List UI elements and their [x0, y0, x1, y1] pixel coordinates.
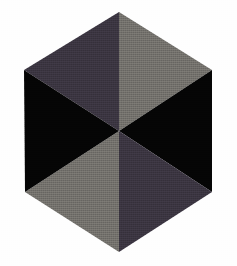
hexagon-figure: [0, 0, 237, 266]
figure-canvas: [0, 0, 237, 266]
